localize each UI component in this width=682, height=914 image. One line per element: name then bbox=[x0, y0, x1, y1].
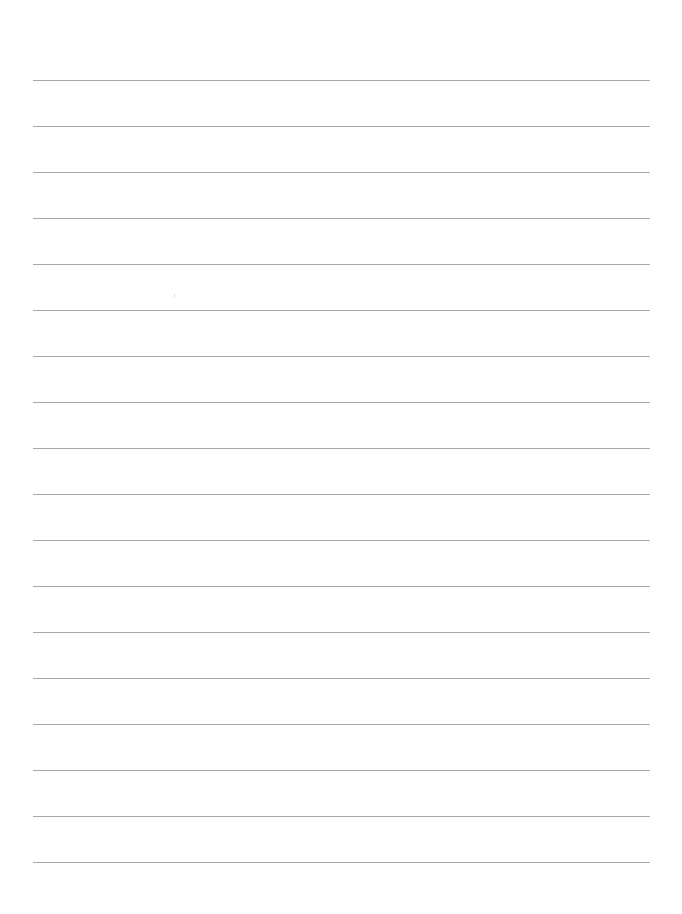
ruled-line bbox=[33, 402, 650, 403]
ruled-line bbox=[33, 310, 650, 311]
ruled-line bbox=[33, 678, 650, 679]
ruled-line bbox=[33, 80, 650, 81]
ruled-line bbox=[33, 770, 650, 771]
ruled-line bbox=[33, 218, 650, 219]
ruled-line bbox=[33, 126, 650, 127]
ruled-line bbox=[33, 724, 650, 725]
ruled-line bbox=[33, 494, 650, 495]
paper-speck bbox=[174, 294, 175, 297]
ruled-line bbox=[33, 586, 650, 587]
ruled-line bbox=[33, 862, 650, 863]
ruled-line bbox=[33, 632, 650, 633]
ruled-line bbox=[33, 356, 650, 357]
ruled-line bbox=[33, 264, 650, 265]
ruled-line bbox=[33, 816, 650, 817]
ruled-line bbox=[33, 172, 650, 173]
ruled-line bbox=[33, 448, 650, 449]
ruled-line bbox=[33, 540, 650, 541]
lined-paper-page bbox=[0, 0, 682, 914]
